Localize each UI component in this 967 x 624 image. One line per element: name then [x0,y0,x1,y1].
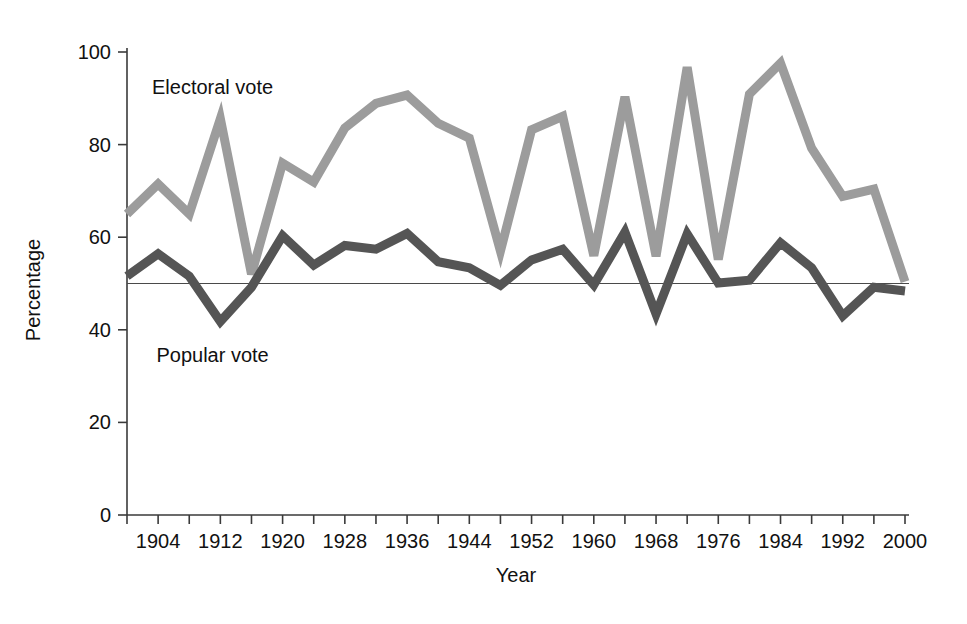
x-tick-label: 2000 [883,530,928,552]
x-tick-label: 1936 [385,530,430,552]
x-tick-label: 1944 [447,530,492,552]
chart-container: 020406080100 190419121920192819361944195… [0,0,967,624]
x-axis-title: Year [496,564,537,586]
series-annotations: Electoral votePopular vote [152,76,273,367]
y-tick-label: 100 [78,41,111,63]
y-tick-label: 40 [89,319,111,341]
x-tick-label: 1912 [198,530,243,552]
y-tick-label: 60 [89,226,111,248]
y-tick-label: 80 [89,134,111,156]
x-tick-label: 1920 [260,530,305,552]
x-tick-label: 1976 [696,530,741,552]
x-tick-label: 1952 [509,530,554,552]
x-tick-label: 1992 [821,530,866,552]
series-label-electoral-vote: Electoral vote [152,76,273,98]
x-tick-label: 1968 [634,530,679,552]
y-axis-title: Percentage [22,239,44,341]
x-tick-label: 1928 [323,530,368,552]
x-axis: 1904191219201928193619441952196019681976… [127,515,927,552]
x-tick-label: 1984 [758,530,803,552]
x-tick-label: 1960 [572,530,617,552]
y-tick-label: 20 [89,411,111,433]
x-tick-label: 1904 [136,530,181,552]
series-label-popular-vote: Popular vote [156,344,268,366]
y-axis: 020406080100 [78,41,127,526]
series-lines [127,63,905,321]
line-chart: 020406080100 190419121920192819361944195… [0,0,967,624]
y-tick-label: 0 [100,504,111,526]
